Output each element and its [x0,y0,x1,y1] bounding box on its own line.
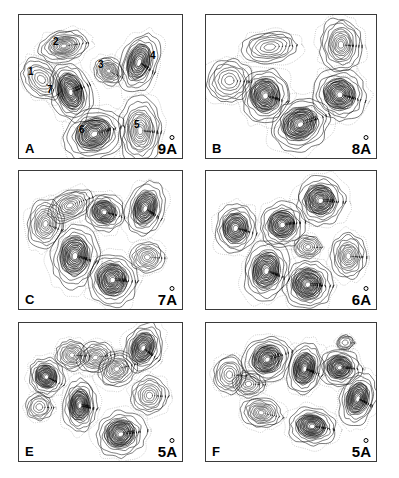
panel-E-resolution-value: 5 [158,443,166,460]
panel-A: A 9A 1234567 [18,14,183,159]
panel-B-resolution: 8A [352,141,371,156]
panel-E-resolution: 5A [158,444,177,459]
panel-E-contour-plot [19,323,182,461]
contour-figure: A 9A 1234567 B 8A C 7A 6A E 5A F 5A [0,0,399,478]
panel-B-letter: B [212,142,221,155]
panel-D-contour-plot [206,171,376,309]
panel-C-contour-plot [19,171,182,309]
panel-A-letter: A [25,142,34,155]
panel-B-resolution-value: 8 [352,140,360,157]
panel-E: E 5A [18,322,183,462]
panel-F-resolution-value: 5 [352,443,360,460]
panel-B-contour-plot [206,15,376,158]
panel-C-resolution-value: 7 [158,291,166,308]
feature-label-2: 2 [53,37,59,47]
panel-C: C 7A [18,170,183,310]
panel-A-resolution: 9A [158,141,177,156]
panel-F-contour-plot [206,323,376,461]
panel-F-resolution: 5A [352,444,371,459]
angstrom-icon: A [360,292,371,307]
feature-label-5: 5 [134,120,140,130]
feature-label-7: 7 [47,85,53,95]
panel-D: 6A [205,170,377,310]
angstrom-icon: A [166,444,177,459]
panel-E-letter: E [25,445,34,458]
feature-label-6: 6 [79,125,85,135]
panel-D-resolution: 6A [352,292,371,307]
panel-D-resolution-value: 6 [352,291,360,308]
panel-C-letter: C [25,293,34,306]
angstrom-icon: A [166,292,177,307]
feature-label-4: 4 [150,51,156,61]
panel-A-resolution-value: 9 [158,140,166,157]
angstrom-icon: A [360,444,371,459]
panel-B: B 8A [205,14,377,159]
angstrom-icon: A [166,141,177,156]
panel-C-resolution: 7A [158,292,177,307]
feature-label-1: 1 [28,67,34,77]
feature-label-3: 3 [98,60,104,70]
panel-A-contour-plot [19,15,182,158]
angstrom-icon: A [360,141,371,156]
panel-F: F 5A [205,322,377,462]
panel-F-letter: F [212,445,220,458]
